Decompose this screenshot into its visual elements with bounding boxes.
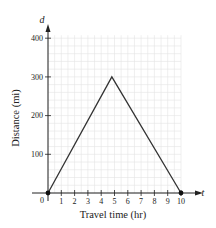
y-tick-label: 200 bbox=[31, 111, 43, 120]
x-tick-label: 1 bbox=[59, 197, 63, 206]
y-axis-variable: d bbox=[40, 14, 46, 25]
x-tick-label: 10 bbox=[177, 197, 185, 206]
data-point-marker bbox=[179, 191, 184, 196]
x-tick-label: 5 bbox=[113, 197, 117, 206]
x-tick-label: 7 bbox=[139, 197, 143, 206]
origin-label: 0 bbox=[40, 196, 44, 205]
y-tick-label: 300 bbox=[31, 73, 43, 82]
grid bbox=[48, 35, 181, 193]
x-tick-label: 2 bbox=[73, 197, 77, 206]
axes: 12345678910100200300400 bbox=[31, 24, 203, 206]
x-tick-label: 8 bbox=[152, 197, 156, 206]
y-axis-label: Distance (mi) bbox=[10, 89, 22, 147]
x-axis-label: Travel time (hr) bbox=[80, 209, 147, 221]
x-axis-variable: t bbox=[202, 187, 205, 198]
data-point-marker bbox=[46, 191, 51, 196]
x-tick-label: 9 bbox=[166, 197, 170, 206]
y-axis-arrow-icon bbox=[46, 24, 51, 32]
y-tick-label: 400 bbox=[31, 34, 43, 43]
x-tick-label: 6 bbox=[126, 197, 130, 206]
x-tick-label: 3 bbox=[86, 197, 90, 206]
y-tick-label: 100 bbox=[31, 150, 43, 159]
distance-time-chart: 12345678910100200300400 Distance (mi) Tr… bbox=[0, 0, 216, 228]
x-tick-label: 4 bbox=[99, 197, 103, 206]
